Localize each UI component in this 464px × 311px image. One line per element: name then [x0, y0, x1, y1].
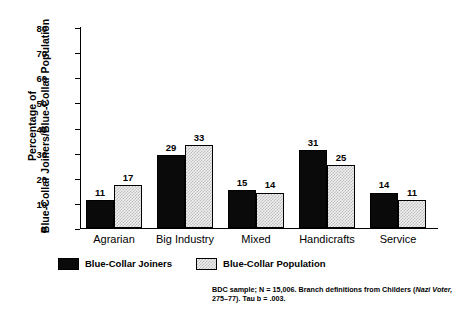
- bar-group: 1514: [228, 27, 284, 228]
- bar-group: 1117: [86, 27, 142, 228]
- chart-legend: Blue-Collar JoinersBlue-Collar Populatio…: [58, 257, 326, 271]
- legend-label: Blue-Collar Joiners: [85, 259, 172, 269]
- y-axis-tick-label: 10: [21, 200, 47, 210]
- figure-note: BDC sample; N = 15,006. Branch definitio…: [212, 286, 460, 303]
- legend-entry: Blue-Collar Joiners: [58, 258, 172, 270]
- bar-value-label: 29: [154, 143, 188, 153]
- x-axis-line: [80, 228, 438, 229]
- y-axis-tick: [75, 179, 80, 180]
- y-axis-tick-label: 40: [21, 125, 47, 135]
- legend-swatch: [196, 258, 217, 270]
- y-axis-tick: [75, 53, 80, 54]
- y-axis-tick: [75, 103, 80, 104]
- y-axis-tick-label: 0: [21, 225, 47, 235]
- bar-value-label: 31: [296, 138, 330, 148]
- bar-value-label: 11: [395, 188, 429, 198]
- y-axis-tick-label: 60: [21, 74, 47, 84]
- legend-entry: Blue-Collar Population: [196, 258, 325, 270]
- y-axis-tick: [75, 78, 80, 79]
- bar-population: [327, 165, 355, 228]
- x-axis-category-label: Service: [350, 234, 446, 245]
- bar-population: [256, 193, 284, 228]
- y-axis-line: [80, 27, 81, 229]
- plot-area: 01020304050607080 11172933151431251411: [80, 27, 438, 229]
- y-axis-tick: [75, 28, 80, 29]
- figure-note-citation-title: Nazi Voter,: [415, 285, 452, 294]
- y-axis-tick: [75, 204, 80, 205]
- bar-group: 3125: [299, 27, 355, 228]
- legend-swatch: [58, 258, 79, 270]
- bar-value-label: 25: [324, 153, 358, 163]
- bar-joiners: [86, 200, 114, 228]
- bar-population: [114, 185, 142, 228]
- legend-label: Blue-Collar Population: [223, 259, 325, 269]
- bar-population: [185, 145, 213, 228]
- y-axis-tick-label: 50: [21, 99, 47, 109]
- y-axis-tick-label: 70: [21, 49, 47, 59]
- bar-joiners: [157, 155, 185, 228]
- bar-chart-figure: Percentage of Blue-Collar Joiners/Blue-C…: [0, 0, 464, 311]
- bar-joiners: [370, 193, 398, 228]
- bar-population: [398, 200, 426, 228]
- bar-group: 1411: [370, 27, 426, 228]
- bar-group: 2933: [157, 27, 213, 228]
- bar-value-label: 33: [182, 133, 216, 143]
- y-axis-tick-label: 80: [21, 24, 47, 34]
- bar-value-label: 11: [83, 188, 117, 198]
- bar-value-label: 17: [111, 173, 145, 183]
- y-axis-tick: [75, 154, 80, 155]
- y-axis-tick-label: 30: [21, 150, 47, 160]
- y-axis-tick-label: 20: [21, 175, 47, 185]
- bar-joiners: [299, 150, 327, 228]
- bar-joiners: [228, 190, 256, 228]
- bar-value-label: 14: [253, 180, 287, 190]
- figure-note-line-2: 275–77). Tau b = .003.: [212, 294, 286, 303]
- y-axis-tick: [75, 229, 80, 230]
- y-axis-tick: [75, 129, 80, 130]
